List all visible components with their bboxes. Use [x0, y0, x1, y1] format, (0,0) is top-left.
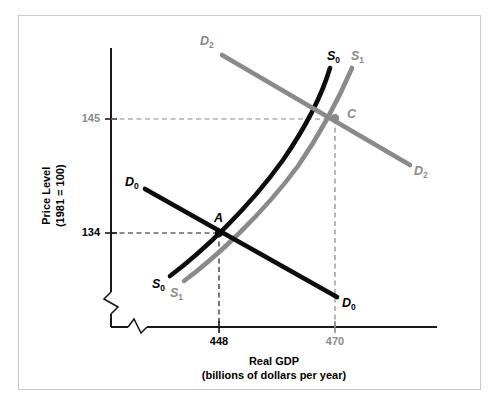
curve-d0-aggregate-demand [145, 189, 337, 297]
curve-label-d0-right: D0 [342, 297, 356, 310]
curve-label-s1-top: S1 [351, 50, 364, 63]
x-tick-label-470: 470 [315, 336, 355, 347]
y-tick-label-145: 145 [60, 113, 100, 124]
curve-label-d2-left-letter: D [200, 34, 209, 48]
curve-label-d0-left: D0 [125, 176, 139, 189]
curve-label-d0-left-sub: 0 [134, 181, 139, 191]
point-c-marker [331, 114, 339, 122]
curve-d2-aggregate-demand-shifted [222, 55, 410, 165]
curve-label-d2-left-sub: 2 [209, 40, 214, 50]
y-axis-title: Price Level (1981 = 100) [40, 136, 68, 256]
curve-label-d0-right-sub: 0 [351, 302, 356, 312]
y-axis-title-line2: (1981 = 100) [54, 136, 68, 256]
x-axis-title: Real GDP (billions of dollars per year) [174, 355, 374, 383]
curve-label-d2-right-letter: D [414, 164, 423, 178]
curve-s0-aggregate-supply [170, 68, 330, 276]
curve-label-s1-top-sub: 1 [359, 55, 364, 65]
curve-label-d0-right-letter: D [342, 296, 351, 310]
y-axis-title-line1: Price Level [40, 136, 54, 256]
chart-canvas [0, 0, 496, 406]
point-label-a: A [214, 212, 223, 225]
point-label-c: C [347, 108, 356, 121]
y-axis-break-icon [104, 292, 118, 314]
x-axis-break-icon [128, 319, 147, 333]
curve-label-d0-left-letter: D [125, 175, 134, 189]
curve-label-s0-top-sub: 0 [335, 55, 340, 65]
curve-label-d2-left: D2 [200, 35, 214, 48]
curve-label-s1-bottom-sub: 1 [178, 292, 183, 302]
curve-label-s1-bottom: S1 [170, 287, 183, 300]
curve-label-s0-bottom: S0 [152, 278, 165, 291]
economics-ad-as-figure: 145 134 448 470 Price Level (1981 = 100)… [0, 0, 496, 406]
curve-label-d2-right: D2 [414, 165, 428, 178]
curve-label-s0-bottom-sub: 0 [160, 283, 165, 293]
x-axis-title-line2: (billions of dollars per year) [174, 369, 374, 383]
curve-label-s0-top: S0 [327, 50, 340, 63]
x-axis-title-line1: Real GDP [174, 355, 374, 369]
point-a-marker [215, 229, 223, 237]
x-tick-label-448: 448 [199, 336, 239, 347]
curve-label-d2-right-sub: 2 [423, 170, 428, 180]
curve-s1-aggregate-supply-shifted [184, 68, 352, 281]
